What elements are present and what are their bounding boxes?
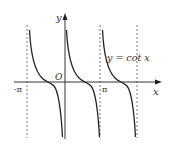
y-axis-label: y [55, 12, 62, 23]
cot-curves [30, 30, 136, 137]
function-label: y = cot x [106, 52, 150, 63]
cot-graph: y x O -π π y = cot x [0, 0, 172, 153]
tick-neg-pi: -π [14, 85, 22, 94]
x-axis-label: x [153, 86, 159, 97]
y-axis-arrow-icon [63, 13, 68, 20]
x-axis-arrow-icon [155, 80, 162, 85]
origin-label: O [55, 72, 63, 82]
branch-2 [67, 30, 100, 137]
tick-pi: π [102, 85, 107, 94]
branch-3 [103, 30, 136, 137]
branch-1 [30, 30, 63, 137]
